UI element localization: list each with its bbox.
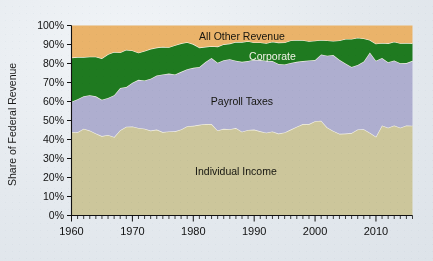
x-tick-label: 2010 xyxy=(364,225,388,237)
y-tick-label: 70% xyxy=(43,76,64,88)
y-tick-labels: 0%10%20%30%40%50%60%70%80%90%100% xyxy=(37,19,64,221)
x-tick-label: 2000 xyxy=(303,225,327,237)
series-annotation: All Other Revenue xyxy=(199,30,285,42)
y-tick-label: 0% xyxy=(49,209,64,221)
area-series-group xyxy=(72,26,413,216)
y-axis-title: Share of Federal Revenue xyxy=(6,63,18,186)
series-annotation: Payroll Taxes xyxy=(211,95,273,107)
y-tick-label: 50% xyxy=(43,114,64,126)
y-tick-label: 10% xyxy=(43,190,64,202)
y-tick-label: 20% xyxy=(43,171,64,183)
y-tick-label: 90% xyxy=(43,38,64,50)
chart-page: 0%10%20%30%40%50%60%70%80%90%100% 196019… xyxy=(0,0,433,261)
series-annotation: Corporate xyxy=(249,50,296,62)
y-axis-title-text: Share of Federal Revenue xyxy=(6,63,18,186)
y-tick-label: 40% xyxy=(43,133,64,145)
x-tick-labels: 196019701980199020002010 xyxy=(59,225,388,237)
x-tick-label: 1990 xyxy=(242,225,266,237)
y-tick-label: 80% xyxy=(43,57,64,69)
x-tick-label: 1970 xyxy=(120,225,144,237)
y-tick-label: 100% xyxy=(37,19,64,31)
y-tick-label: 30% xyxy=(43,152,64,164)
y-tick-label: 60% xyxy=(43,95,64,107)
series-annotation: Individual Income xyxy=(195,165,277,177)
x-tick-label: 1960 xyxy=(59,225,83,237)
x-tick-label: 1980 xyxy=(181,225,205,237)
stacked-area-chart: 0%10%20%30%40%50%60%70%80%90%100% 196019… xyxy=(0,0,433,261)
chart-svg: 0%10%20%30%40%50%60%70%80%90%100% 196019… xyxy=(0,0,433,261)
